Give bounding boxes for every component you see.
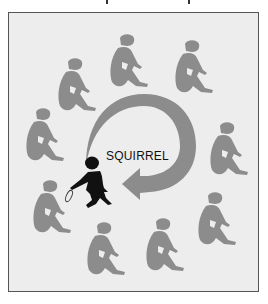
seated-person-icon [26, 108, 64, 161]
seated-person-icon [110, 34, 148, 87]
seated-person-icon [33, 180, 71, 233]
seated-person-icon [198, 192, 236, 245]
seated-person-icon [146, 218, 184, 271]
dropped-nut-icon [64, 189, 74, 202]
squirrel-person-icon [70, 157, 112, 209]
seated-person-icon [87, 222, 125, 275]
seated-person-icon [210, 122, 248, 175]
squirrel-label: SQUIRREL [106, 149, 169, 163]
seated-person-icon [175, 40, 213, 93]
seated-person-icon [58, 58, 96, 111]
